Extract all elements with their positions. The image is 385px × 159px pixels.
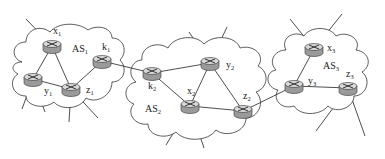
router-icon: [93, 56, 111, 69]
router-icon: [143, 68, 161, 81]
as2-cloud: [126, 38, 266, 140]
router-icon: [62, 84, 80, 97]
as3-cloud: [268, 29, 368, 114]
router-y2: y2: [201, 58, 234, 72]
router-z1: z1: [62, 84, 94, 97]
router-icon: [181, 101, 199, 114]
router-icon: [285, 81, 303, 94]
router-icon: [305, 44, 323, 57]
router-icon: [43, 41, 61, 54]
router-icon: [234, 106, 252, 119]
router-icon: [201, 58, 219, 71]
router-icon: [339, 83, 357, 96]
router-icon: [24, 74, 42, 87]
network-diagram: x1y1z1k1k2x2y2z2x3y3z3 AS1AS2AS3: [0, 0, 385, 159]
